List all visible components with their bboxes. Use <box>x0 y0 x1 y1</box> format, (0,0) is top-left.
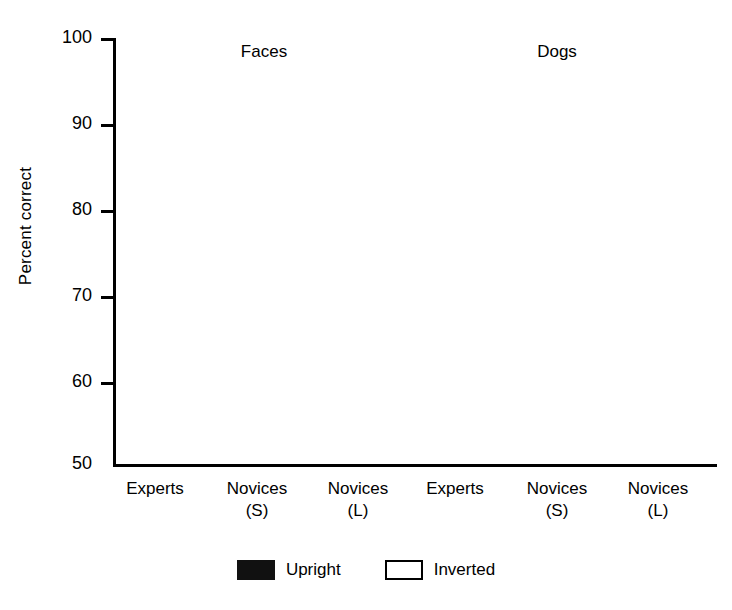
chart-legend: Upright Inverted <box>0 560 732 580</box>
legend-item-upright: Upright <box>237 560 341 580</box>
x-label-line1: Novices <box>588 478 728 500</box>
legend-item-inverted: Inverted <box>385 560 495 580</box>
x-label-line2: (L) <box>588 500 728 522</box>
y-tick-label-70: 70 <box>72 285 92 305</box>
x-label-line2: (L) <box>288 500 428 522</box>
y-tick-label-100: 100 <box>62 27 92 47</box>
legend-label-upright: Upright <box>286 560 341 580</box>
bar-chart-figure: Percent correct 100 90 80 70 60 50 Faces… <box>0 0 732 610</box>
y-axis-label: Percent correct <box>16 126 36 326</box>
y-tick-label-80: 80 <box>72 199 92 219</box>
y-tick-label-60: 60 <box>72 371 92 391</box>
bars-area <box>113 38 717 466</box>
legend-swatch-inverted-icon <box>385 560 423 580</box>
y-tick-label-50: 50 <box>72 453 92 473</box>
y-tick-label-90: 90 <box>72 113 92 133</box>
legend-label-inverted: Inverted <box>434 560 495 580</box>
x-label-dogs-novices-l: Novices (L) <box>588 478 728 522</box>
legend-swatch-upright-icon <box>237 560 275 580</box>
